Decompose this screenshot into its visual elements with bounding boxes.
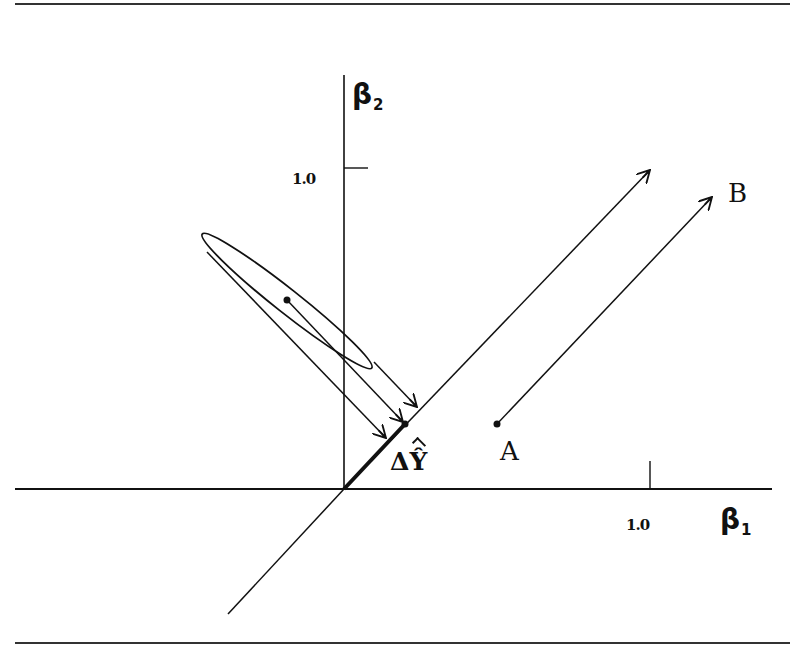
- y-hat-symbol: Ŷ: [409, 447, 427, 476]
- diagram-canvas: [0, 0, 804, 649]
- beta2-subscript: 2: [373, 96, 383, 114]
- delta-y-hat-label: ΔŶ: [390, 447, 427, 476]
- center-projection-arrow: [287, 300, 403, 422]
- beta1-symbol: β: [720, 503, 740, 536]
- upper-projection-arrow: [374, 362, 417, 407]
- beta1-axis-label: β1: [720, 503, 751, 539]
- point-a-label: A: [500, 436, 519, 466]
- geometry-diagram: β2 1.0 β1 1.0 ΔŶ A B: [0, 0, 804, 649]
- beta2-tick-label: 1.0: [292, 170, 315, 188]
- beta1-subscript: 1: [741, 521, 751, 539]
- lower-projection-arrow: [207, 252, 386, 438]
- beta2-axis-label: β2: [352, 78, 383, 114]
- delta-symbol: Δ: [390, 447, 409, 476]
- a-to-b-arrow: [497, 197, 712, 424]
- diagonal-line: [228, 489, 344, 614]
- point-b-label: B: [728, 178, 747, 208]
- beta1-tick-label: 1.0: [626, 516, 649, 534]
- beta2-symbol: β: [352, 78, 372, 111]
